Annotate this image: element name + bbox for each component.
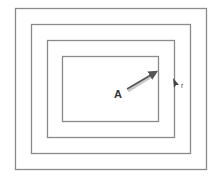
point-marker-icon [173, 78, 179, 88]
vector-arrow [127, 72, 156, 89]
point-label: r [181, 82, 184, 89]
vector-label: A [114, 88, 122, 100]
vector-arrow-shadow [128, 74, 155, 91]
concentric-rectangles-diagram: A r [0, 0, 218, 181]
inner-rectangle [63, 57, 159, 122]
outer-rectangle [16, 9, 207, 170]
third-rectangle [48, 41, 175, 138]
second-rectangle [32, 25, 191, 154]
